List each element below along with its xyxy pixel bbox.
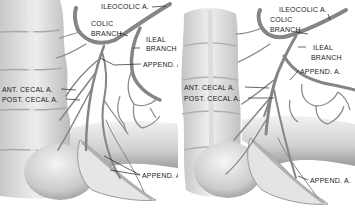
label-appendicular-artery-lower: APPEND. A. bbox=[142, 172, 178, 179]
label-appendicular-artery-upper: APPEND. A. bbox=[300, 68, 341, 75]
left-illustration-panel: ILEOCOLIC A. COLIC BRANCH ILEAL BRANCH A… bbox=[0, 0, 178, 212]
right-illustration-panel: ILEOCOLIC A. COLIC BRANCH ILEAL BRANCH A… bbox=[178, 0, 355, 212]
label-colic-branch-line1: COLIC bbox=[91, 20, 113, 27]
label-ileal-branch-line2: BRANCH bbox=[311, 54, 342, 61]
label-ileocolic-artery: ILEOCOLIC A. bbox=[101, 3, 149, 10]
label-colic-branch-line2: BRANCH bbox=[270, 26, 301, 33]
label-ileal-branch-line2: BRANCH bbox=[146, 45, 177, 52]
label-anterior-cecal-artery: ANT. CECAL A. bbox=[2, 86, 53, 93]
label-appendicular-artery-upper: APPEND. A. bbox=[143, 61, 178, 68]
label-ileocolic-artery: ILEOCOLIC A. bbox=[279, 6, 327, 13]
label-colic-branch-line2: BRANCH bbox=[91, 30, 122, 37]
label-anterior-cecal-artery: ANT. CECAL A. bbox=[184, 84, 235, 91]
label-colic-branch-line1: COLIC bbox=[270, 16, 292, 23]
label-appendicular-artery-lower: APPEND. A. bbox=[310, 177, 351, 184]
left-leader-lines bbox=[0, 0, 178, 212]
label-ileal-branch-line1: ILEAL bbox=[313, 44, 333, 51]
label-posterior-cecal-artery: POST. CECAL A. bbox=[2, 96, 58, 103]
label-ileal-branch-line1: ILEAL bbox=[146, 36, 166, 43]
label-posterior-cecal-artery: POST. CECAL A. bbox=[184, 95, 240, 102]
